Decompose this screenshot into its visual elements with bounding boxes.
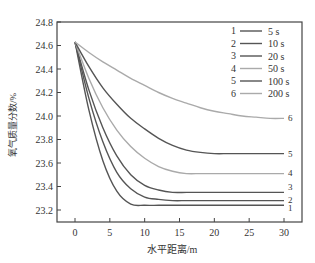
legend-label: 5 s	[268, 26, 280, 37]
y-tick-label: 23.6	[36, 158, 54, 169]
legend-index: 3	[231, 50, 236, 61]
series-end-label: 6	[288, 113, 293, 123]
x-tick-label: 5	[107, 227, 112, 238]
series-line-2	[75, 42, 284, 201]
x-tick-label: 15	[175, 227, 185, 238]
x-tick-label: 10	[140, 227, 150, 238]
legend-label: 200 s	[268, 88, 290, 99]
legend-label: 10 s	[268, 38, 285, 49]
plot-area: 23.223.423.623.824.024.224.424.624.80510…	[7, 17, 302, 256]
legend-index: 1	[231, 25, 236, 36]
x-tick-label: 25	[244, 227, 254, 238]
x-axis-label: 水平距离/m	[147, 243, 198, 255]
series-end-label: 1	[288, 203, 293, 213]
series-end-label: 2	[288, 195, 293, 205]
y-axis-label: 氧气质量分数/%	[7, 92, 18, 157]
legend-index: 6	[231, 88, 236, 99]
y-tick-label: 24.2	[36, 87, 54, 98]
series-end-label: 3	[288, 182, 293, 192]
y-tick-label: 23.2	[36, 205, 54, 216]
y-tick-label: 24.4	[36, 64, 54, 75]
series-end-label: 5	[288, 149, 293, 159]
x-tick-label: 20	[209, 227, 219, 238]
series-line-1	[75, 42, 284, 206]
y-tick-label: 24.8	[36, 17, 54, 28]
x-tick-label: 30	[279, 227, 289, 238]
series-end-label: 4	[288, 168, 293, 178]
legend-index: 2	[231, 38, 236, 49]
y-tick-label: 23.4	[36, 181, 54, 192]
y-tick-label: 23.8	[36, 134, 54, 145]
legend-label: 20 s	[268, 51, 285, 62]
legend-label: 50 s	[268, 63, 285, 74]
legend-index: 4	[231, 63, 236, 74]
y-tick-label: 24.6	[36, 40, 54, 51]
series-line-6	[75, 42, 284, 118]
legend-label: 100 s	[268, 76, 290, 87]
x-tick-label: 0	[73, 227, 78, 238]
line-chart: 23.223.423.623.824.024.224.424.624.80510…	[0, 0, 315, 263]
y-tick-label: 24.0	[36, 111, 54, 122]
legend-index: 5	[231, 75, 236, 86]
